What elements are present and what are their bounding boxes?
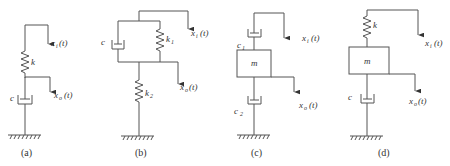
output-label: x o (t) xyxy=(53,90,73,101)
svg-text:x: x xyxy=(53,90,58,100)
panel-d: m k c x i (t) x o (t) (d) xyxy=(348,10,443,159)
svg-text:x: x xyxy=(301,33,306,43)
damper-icon xyxy=(112,21,124,62)
svg-text:x: x xyxy=(408,96,413,106)
svg-text:i: i xyxy=(430,43,432,49)
output-label: x o (t) xyxy=(408,96,427,107)
spring-icon xyxy=(156,21,164,62)
panel-caption: (d) xyxy=(378,147,390,159)
svg-text:2: 2 xyxy=(240,111,243,117)
spring1-label: k 1 xyxy=(166,34,174,45)
svg-text:i: i xyxy=(196,33,198,39)
svg-text:o: o xyxy=(59,95,62,101)
input-label: x i (t) xyxy=(190,28,209,39)
output-connector-b xyxy=(160,62,178,84)
panel-c: m c 1 c 2 x i (t) x o xyxy=(234,13,320,159)
input-label: x i (t) xyxy=(301,33,320,44)
input-connector-c xyxy=(254,13,284,38)
svg-text:(t): (t) xyxy=(64,90,73,100)
ground-icon xyxy=(8,135,41,139)
panel-a: k c x i (t) x o (t) (a) xyxy=(8,25,73,159)
svg-text:o: o xyxy=(304,105,307,111)
input-label: x i (t) xyxy=(424,38,443,49)
panel-b: c k 1 k 2 x i (t) x o (t) (b) xyxy=(101,11,209,159)
mechanical-systems-figure: k c x i (t) x o (t) (a) xyxy=(0,0,450,166)
damper-icon xyxy=(248,77,261,135)
svg-text:(t): (t) xyxy=(309,100,318,110)
input-connector-a xyxy=(25,25,48,48)
output-label: x o (t) xyxy=(179,82,198,93)
svg-text:(t): (t) xyxy=(59,38,68,48)
svg-text:(t): (t) xyxy=(200,28,209,38)
spring-icon xyxy=(363,14,371,47)
svg-text:x: x xyxy=(190,28,195,38)
svg-text:x: x xyxy=(424,38,429,48)
spring-label: k xyxy=(373,20,378,30)
svg-text:1: 1 xyxy=(171,39,174,45)
damper1-label: c 1 xyxy=(237,40,245,51)
output-label: x o (t) xyxy=(298,100,318,111)
damper-icon xyxy=(248,29,261,50)
svg-text:x: x xyxy=(179,82,184,92)
svg-text:c: c xyxy=(237,40,241,50)
damper-label: c xyxy=(10,93,14,103)
damper-label: c xyxy=(348,92,352,102)
spring-label: k xyxy=(31,57,36,67)
svg-text:1: 1 xyxy=(242,45,245,51)
output-connector-a xyxy=(25,77,50,92)
svg-text:x: x xyxy=(298,100,303,110)
input-connector-b xyxy=(139,11,188,29)
ground-icon xyxy=(350,136,383,140)
svg-text:i: i xyxy=(56,43,58,49)
svg-text:o: o xyxy=(185,87,188,93)
mass-label: m xyxy=(251,58,258,68)
output-connector-d xyxy=(389,74,415,91)
svg-text:(t): (t) xyxy=(311,33,320,43)
spring-icon xyxy=(21,48,29,78)
panel-caption: (c) xyxy=(251,147,262,159)
svg-text:(t): (t) xyxy=(418,96,427,106)
svg-text:2: 2 xyxy=(150,93,153,99)
ground-icon xyxy=(121,136,154,140)
damper2-label: c 2 xyxy=(234,106,243,117)
input-label: x i (t) xyxy=(50,38,68,49)
damper-icon xyxy=(361,74,374,136)
svg-text:c: c xyxy=(234,106,238,116)
damper-icon xyxy=(18,77,32,135)
output-connector-c xyxy=(271,77,294,92)
panel-caption: (b) xyxy=(135,147,147,159)
damper-label: c xyxy=(101,37,105,47)
svg-text:o: o xyxy=(414,101,417,107)
spring2-label: k 2 xyxy=(145,88,153,99)
mass-label: m xyxy=(364,56,371,66)
panel-caption: (a) xyxy=(21,147,32,159)
spring-icon xyxy=(135,62,143,136)
svg-text:(t): (t) xyxy=(434,38,443,48)
svg-text:(t): (t) xyxy=(189,82,198,92)
ground-icon xyxy=(237,135,270,139)
svg-text:x: x xyxy=(50,38,55,48)
svg-text:i: i xyxy=(307,38,309,44)
